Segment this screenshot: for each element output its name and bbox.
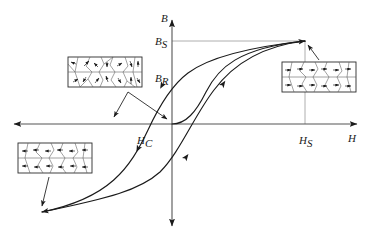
domain-inset-negative-saturation [18, 143, 92, 173]
br-label: BR [155, 72, 169, 87]
axes [14, 20, 357, 226]
hc-label-sub: C [145, 137, 153, 149]
hs-label: HS [298, 134, 313, 149]
b-axis-label: B [161, 12, 168, 24]
hs-label-sub: S [307, 137, 313, 149]
hysteresis-figure: B H BS BR HC HS [0, 0, 373, 241]
leader-positive-saturation [308, 45, 319, 60]
hc-label: HC [136, 134, 153, 149]
h-axis-label: H [347, 132, 357, 144]
domain-inset-positive-saturation [282, 62, 356, 92]
hysteresis-diagram-canvas: B H BS BR HC HS [0, 0, 373, 241]
ascending-branch-arrow-lower [182, 152, 191, 161]
ascending-branch-arrow-upper [219, 79, 228, 88]
leader-negative-saturation [42, 177, 49, 206]
br-label-sub: R [161, 75, 169, 87]
direction-arrows [134, 79, 228, 161]
leader-random-to-coercivity [114, 92, 128, 117]
bs-label: BS [155, 35, 168, 50]
domain-inset-random [68, 57, 142, 87]
bs-label-sub: S [162, 38, 168, 50]
